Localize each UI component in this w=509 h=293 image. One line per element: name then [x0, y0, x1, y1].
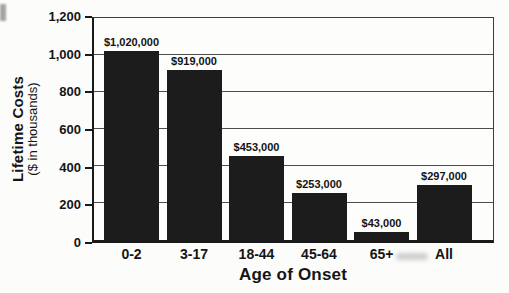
x-axis-title: Age of Onset: [92, 265, 494, 285]
x-category-label: All: [435, 246, 453, 262]
bar-value-label: $253,000: [296, 178, 342, 190]
bar-value-label: $43,000: [362, 217, 402, 229]
y-tick-label: 800: [59, 85, 81, 99]
bar: $297,000All: [417, 185, 472, 240]
y-tick-mark: [85, 16, 92, 18]
bar: $919,0003-17: [167, 70, 222, 240]
y-tick-label: 0: [74, 236, 81, 250]
x-category-label: 18-44: [239, 246, 275, 262]
bar-value-label: $1,020,000: [104, 36, 159, 48]
bar-value-label: $919,000: [171, 55, 217, 67]
x-category-label: 3-17: [180, 246, 208, 262]
y-tick-mark: [85, 204, 92, 206]
y-tick-label: 200: [59, 198, 81, 212]
y-tick-mark: [85, 54, 92, 56]
bar: $453,00018-44: [229, 156, 284, 240]
x-category-label: 65+: [370, 246, 394, 262]
x-category-label: 45-64: [301, 246, 337, 262]
y-tick-label: 600: [59, 123, 81, 137]
y-tick-label: 400: [59, 161, 81, 175]
scan-artifact: [396, 253, 428, 260]
bar-value-label: $297,000: [421, 170, 467, 182]
bar: $43,00065+: [354, 232, 409, 240]
y-tick-mark: [85, 167, 92, 169]
y-tick-mark: [85, 129, 92, 131]
y-tick-label: 1,200: [48, 10, 81, 24]
y-tick-label: 1,000: [48, 48, 81, 62]
bar: $253,00045-64: [292, 193, 347, 240]
bar-chart: Lifetime Costs ($ in thousands) 02004006…: [0, 0, 509, 293]
y-tick-mark: [85, 91, 92, 93]
bar: $1,020,0000-2: [104, 51, 159, 240]
x-category-label: 0-2: [121, 246, 141, 262]
y-axis: 02004006008001,0001,200: [0, 17, 92, 243]
plot-area: $1,020,0000-2$919,0003-17$453,00018-44$2…: [92, 17, 494, 243]
y-tick-mark: [85, 242, 92, 244]
bar-value-label: $453,000: [234, 141, 280, 153]
